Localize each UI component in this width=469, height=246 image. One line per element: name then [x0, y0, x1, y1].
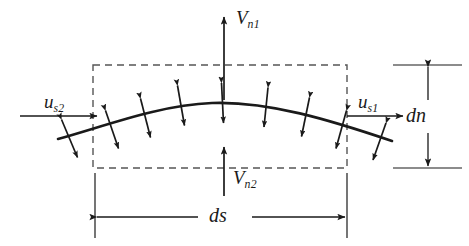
streamline-curve [58, 103, 392, 141]
normal-double-arrow [336, 111, 347, 149]
normal-double-arrow [141, 99, 151, 138]
label-dn: dn [406, 105, 426, 125]
label-us1-base: u [358, 91, 368, 112]
label-vn1: Vn1 [236, 8, 260, 27]
label-us1-sub: s1 [368, 102, 379, 115]
label-us1: us1 [358, 92, 378, 111]
label-vn1-sub: n1 [248, 18, 260, 31]
label-vn2: Vn2 [233, 168, 257, 187]
label-us2-base: u [44, 91, 54, 112]
diagram-canvas [0, 0, 469, 246]
label-us2: us2 [44, 92, 64, 111]
label-us2-sub: s2 [54, 102, 65, 115]
label-vn2-sub: n2 [245, 178, 257, 191]
normal-double-arrow [106, 111, 119, 149]
dn-dimension-group [393, 65, 462, 168]
normal-double-arrow [302, 98, 310, 137]
label-vn2-base: V [233, 167, 245, 188]
figure-container: Vn1 Vn2 us2 us1 dn ds [0, 0, 469, 246]
label-ds: ds [209, 205, 227, 225]
normal-double-arrow [373, 123, 386, 160]
label-vn1-base: V [236, 7, 248, 28]
